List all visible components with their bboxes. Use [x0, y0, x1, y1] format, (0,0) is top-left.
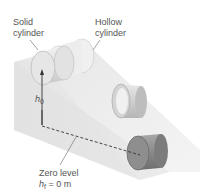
hf-subscript: f [44, 183, 46, 190]
hollow-cylinder [112, 84, 147, 118]
hf-equation: = 0 m [48, 179, 71, 189]
solid-label-line2: cylinder [13, 28, 44, 38]
zero-level-label: Zero level hf = 0 m [39, 168, 79, 192]
solid-cylinder-label: Solid cylinder [13, 17, 44, 39]
hollow-label-line1: Hollow [95, 17, 122, 27]
hollow-label-leader [93, 40, 100, 50]
solid-cylinder [31, 46, 74, 85]
solid-label-leader [30, 40, 38, 50]
hollow-label-line2: cylinder [95, 28, 126, 38]
hollow-cylinder-label: Hollow cylinder [95, 17, 126, 39]
h0-subscript: 0 [40, 98, 44, 105]
initial-height-label: h0 [35, 94, 44, 105]
zero-level-title: Zero level [39, 168, 79, 179]
solid-label-line1: Solid [13, 17, 33, 27]
rolling-cylinders-diagram: Solid cylinder Hollow cylinder h0 Zero l… [0, 0, 203, 196]
bottom-cylinder [127, 134, 168, 170]
